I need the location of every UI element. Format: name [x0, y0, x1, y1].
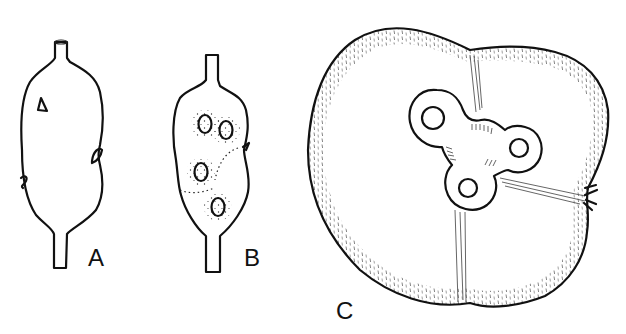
panel-c: C	[308, 28, 608, 324]
panel-b: B	[173, 55, 260, 272]
panel-c-label: C	[336, 297, 353, 324]
panel-b-ovules	[187, 110, 240, 221]
botanical-figure: A B	[0, 0, 626, 334]
panel-a-appendage-1	[38, 98, 47, 111]
panel-a-label: A	[88, 244, 104, 271]
panel-a-ovary-body	[21, 42, 102, 268]
panel-a: A	[21, 40, 104, 271]
panel-a-appendage-2	[92, 149, 102, 163]
panel-b-label: B	[244, 244, 260, 271]
